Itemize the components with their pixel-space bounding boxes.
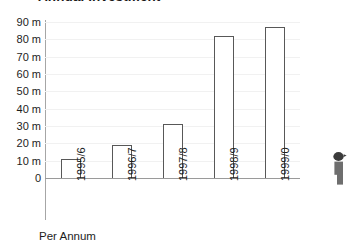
y-axis-tick-label: 80 m xyxy=(17,34,41,45)
y-axis-tick-label: 70 m xyxy=(17,52,41,63)
y-axis-tick-label: 60 m xyxy=(17,69,41,80)
x-axis-caption: Per Annum xyxy=(39,230,96,242)
x-axis-tick-label: 1998/9 xyxy=(229,147,240,181)
y-axis-tick-label: 20 m xyxy=(17,138,41,149)
annual-investment-bar-chart: Annual Investment 90 m80 m70 m60 m50 m40… xyxy=(0,0,347,245)
y-axis-tick-label: 90 m xyxy=(17,17,41,28)
person-silhouette-icon xyxy=(331,151,347,185)
y-axis-tick-label: 10 m xyxy=(17,156,41,167)
y-axis-tick-label: 50 m xyxy=(17,86,41,97)
x-axis-tick-label: 1997/8 xyxy=(178,147,189,181)
x-axis-tick-label: 1995/6 xyxy=(76,147,87,181)
x-axis-tick-label: 1996/7 xyxy=(127,147,138,181)
x-axis-tick-labels: 1995/61996/71997/81998/91999/0 xyxy=(45,181,300,229)
y-axis-tick-labels: 90 m80 m70 m60 m50 m40 m30 m20 m10 m0 xyxy=(0,22,41,178)
x-axis-tick-label: 1999/0 xyxy=(280,147,291,181)
y-axis-tick-label: 30 m xyxy=(17,121,41,132)
y-axis-tick-label: 0 xyxy=(35,173,41,184)
y-axis-tick-label: 40 m xyxy=(17,104,41,115)
chart-title: Annual Investment xyxy=(38,0,160,4)
